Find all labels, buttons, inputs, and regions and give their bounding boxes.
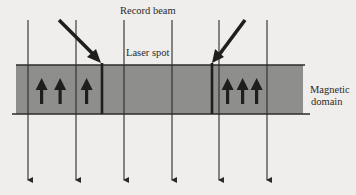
laser-spot-label: Laser spot bbox=[126, 47, 169, 58]
magneto-optical-diagram bbox=[0, 0, 356, 195]
record-beam-label: Record beam bbox=[120, 5, 176, 16]
magnetic-domain-label-line1: Magnetic bbox=[310, 84, 350, 95]
record-beam-arrow-left bbox=[59, 20, 101, 63]
record-beam-arrow-right bbox=[212, 20, 245, 63]
up-arrows-right bbox=[222, 78, 263, 104]
magnetic-domain-label-line2: domain bbox=[311, 96, 343, 107]
